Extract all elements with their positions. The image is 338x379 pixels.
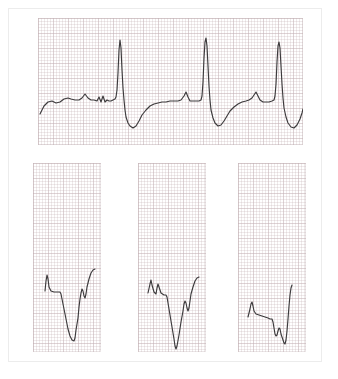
ecg-trace-lead-strip-1 bbox=[33, 163, 101, 352]
ecg-document bbox=[0, 0, 338, 379]
ecg-panel-rhythm-strip bbox=[38, 18, 303, 145]
ecg-waveform-path bbox=[248, 285, 292, 344]
ecg-trace-lead-strip-2 bbox=[138, 163, 206, 352]
ecg-panel-lead-strip-2 bbox=[138, 163, 206, 352]
ecg-waveform-path bbox=[40, 38, 303, 128]
ecg-trace-rhythm-strip bbox=[38, 18, 303, 145]
ecg-waveform-path bbox=[148, 277, 199, 349]
ecg-panel-lead-strip-3 bbox=[238, 163, 306, 352]
ecg-panel-lead-strip-1 bbox=[33, 163, 101, 352]
ecg-waveform-path bbox=[45, 269, 95, 341]
ecg-trace-lead-strip-3 bbox=[238, 163, 306, 352]
